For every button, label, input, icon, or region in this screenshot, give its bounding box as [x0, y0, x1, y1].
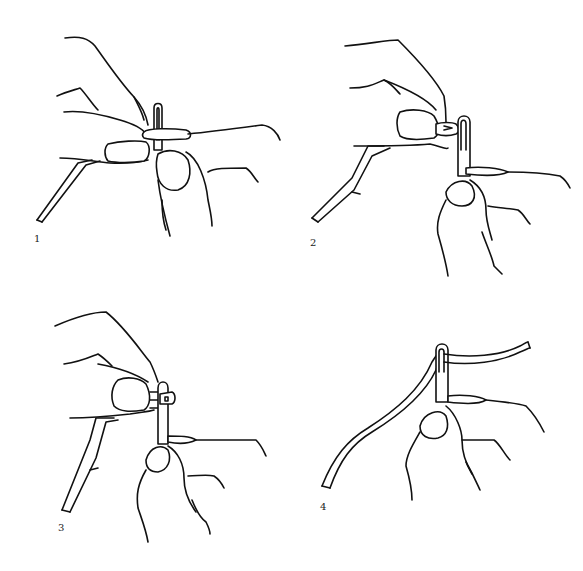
needle-threading-illustration: 1 2 3 4 [0, 0, 583, 571]
panel-3-drawing [55, 312, 266, 542]
panel-2-drawing [312, 40, 570, 276]
step-label-1: 1 [34, 234, 40, 244]
illustration-drawing [0, 0, 583, 571]
step-label-2: 2 [310, 238, 316, 248]
panel-1-drawing [37, 37, 280, 236]
panel-4-drawing [322, 342, 544, 500]
step-label-4: 4 [320, 502, 326, 512]
step-label-3: 3 [58, 523, 64, 533]
